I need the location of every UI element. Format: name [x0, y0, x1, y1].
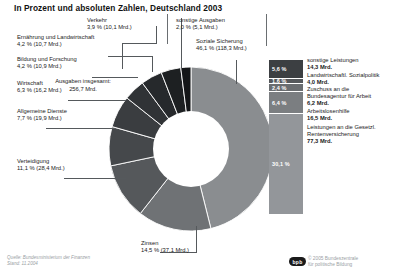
- callout-ernaehrung-value: 4,2 % (10,7 Mrd.): [17, 41, 94, 48]
- callout-zinsen: Zinsen 14,5 % (37,1 Mrd.): [141, 240, 189, 255]
- leader-line-soziale-v: [236, 60, 237, 84]
- bar-segment-pct: 2,4 %: [269, 85, 287, 91]
- callout-bildung: Bildung und Forschung 4,2 % (10,9 Mrd.): [17, 56, 77, 71]
- callout-allgemeine-dienste: Allgemeine Dienste 7,7 % (19,9 Mrd.): [17, 108, 67, 123]
- callout-verkehr-value: 3,9 % (10,1 Mrd.): [87, 24, 132, 31]
- legend-item-name: Arbeitslosenhilfe: [307, 108, 350, 115]
- callout-sonstige-name: sonstige Ausgaben: [176, 17, 225, 24]
- callout-sonstige-ausgaben: sonstige Ausgaben 2,0 % (5,1 Mrd.): [176, 17, 225, 32]
- breakout-stacked-bar: 5,6 %1,6 %2,4 %6,4 %30,1 %: [269, 60, 303, 215]
- legend-item-name: Landwirtschaftl. Sozialpolitik: [307, 72, 380, 79]
- leader-line-verteidigung: [64, 178, 126, 179]
- source-line-1: Quelle: Bundesministerium der Finanzen: [7, 255, 90, 260]
- legend-item-name: sonstige Leistungen: [307, 57, 359, 64]
- bpb-logo: bpb: [289, 257, 306, 266]
- source-line-2: Stand: 11.2004: [7, 261, 38, 266]
- callout-soziale-sicherung: Soziale Sicherung 46,1 % (118,3 Mrd.): [196, 38, 247, 53]
- callout-zinsen-name: Zinsen: [141, 240, 189, 247]
- copyright-credit: © 2005 Bundeszentrale für politische Bil…: [308, 256, 358, 268]
- leader-line-bildung: [92, 77, 138, 78]
- callout-soziale-name: Soziale Sicherung: [196, 38, 247, 45]
- leader-line-verkehr-h: [122, 43, 157, 44]
- divider-top-left: [167, 14, 168, 44]
- source-note: Quelle: Bundesministerium der Finanzen S…: [7, 255, 90, 267]
- callout-verkehr: Verkehr 3,9 % (10,1 Mrd.): [87, 17, 132, 32]
- callout-ernaehrung-name: Ernährung und Landwirtschaft: [17, 34, 94, 41]
- pie-chart: [108, 63, 274, 235]
- bar-segment-pct: 6,4 %: [269, 100, 287, 106]
- legend-item-value: 14,3 Mrd.: [307, 64, 359, 71]
- legend-item: Landwirtschaftl. Sozialpolitik4,0 Mrd.: [307, 72, 380, 86]
- leader-line-wirtschaft: [68, 100, 126, 101]
- callout-verteidigung: Verteidigung 11,1 % (28,4 Mrd.): [17, 158, 65, 173]
- total-label: Ausgaben insgesamt:: [55, 78, 111, 86]
- donut-hole: [153, 111, 229, 187]
- leader-line-verkehr-v: [156, 26, 157, 44]
- page-title: In Prozent und absoluten Zahlen, Deutsch…: [14, 3, 222, 13]
- legend-item-name: Zuschuss an dieBundesagentur für Arbeit: [307, 86, 371, 100]
- callout-sonstige-value: 2,0 % (5,1 Mrd.): [176, 24, 225, 31]
- bar-segment: 5,6 %: [269, 60, 303, 79]
- callout-zinsen-value: 14,5 % (37,1 Mrd.): [141, 247, 189, 254]
- callout-dienste-name: Allgemeine Dienste: [17, 108, 67, 115]
- legend-item-value: 77,3 Mrd.: [307, 138, 376, 145]
- legend-item: Zuschuss an dieBundesagentur für Arbeit6…: [307, 86, 371, 108]
- legend-item: Arbeitslosenhilfe16,5 Mrd.: [307, 108, 350, 122]
- callout-verteidigung-name: Verteidigung: [17, 158, 65, 165]
- credit-line-1: © 2005 Bundeszentrale: [308, 256, 358, 261]
- leader-line-ernaehrung: [108, 56, 152, 57]
- bar-segment: 6,4 %: [269, 92, 303, 114]
- callout-bildung-name: Bildung und Forschung: [17, 56, 77, 63]
- bar-segment-pct: 5,6 %: [269, 66, 287, 72]
- legend-item-value: 6,2 Mrd.: [307, 100, 371, 107]
- callout-dienste-value: 7,7 % (19,9 Mrd.): [17, 115, 67, 122]
- callout-wirtschaft-name: Wirtschaft: [17, 80, 62, 87]
- leader-line-zinsen-v: [196, 226, 197, 252]
- bar-segment-pct: 30,1 %: [269, 161, 290, 167]
- legend-item-value: 16,5 Mrd.: [307, 115, 350, 122]
- callout-soziale-value: 46,1 % (118,3 Mrd.): [196, 45, 247, 52]
- legend-item: Leistungen an die Gesetzl.Rentenversiche…: [307, 124, 376, 146]
- callout-ernaehrung: Ernährung und Landwirtschaft 4,2 % (10,7…: [17, 34, 94, 49]
- credit-line-2: für politische Bildung: [308, 262, 352, 267]
- legend-item-name: Leistungen an die Gesetzl.Rentenversiche…: [307, 124, 376, 138]
- callout-verteidigung-value: 11,1 % (28,4 Mrd.): [17, 165, 65, 172]
- bar-segment-pct: 1,6 %: [269, 78, 287, 84]
- leader-line-dienste: [46, 128, 115, 129]
- bar-segment: 30,1 %: [269, 114, 303, 215]
- callout-wirtschaft-value: 6,3 % (16,2 Mrd.): [17, 87, 62, 94]
- leader-line-ernaehrung-v: [152, 56, 153, 72]
- callout-bildung-value: 4,2 % (10,9 Mrd.): [17, 63, 77, 70]
- legend-item: sonstige Leistungen14,3 Mrd.: [307, 57, 359, 71]
- total-value: 256,7 Mrd.: [69, 86, 97, 94]
- infographic-canvas: In Prozent und absoluten Zahlen, Deutsch…: [0, 0, 410, 276]
- bpb-logo-text: bpb: [292, 259, 302, 264]
- bar-segment: 2,4 %: [269, 84, 303, 92]
- divider-top-right: [266, 14, 267, 46]
- callout-wirtschaft: Wirtschaft 6,3 % (16,2 Mrd.): [17, 80, 62, 95]
- callout-verkehr-name: Verkehr: [87, 17, 132, 24]
